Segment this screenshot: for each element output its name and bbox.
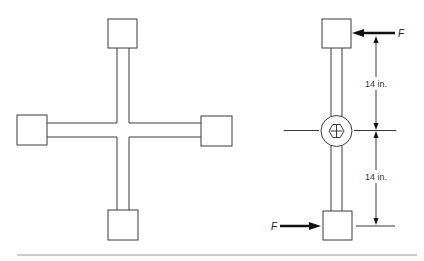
hub-nut-icon (321, 116, 352, 147)
wrench-diagram: 14 in. 14 in. F F (0, 0, 424, 261)
force-arrow-bottom: F (271, 221, 321, 232)
wrench-side-view-with-forces: 14 in. 14 in. F F (271, 19, 405, 240)
dimension-upper: 14 in. (365, 36, 387, 130)
force-top-label: F (398, 28, 405, 39)
dimension-lower: 14 in. (365, 131, 387, 225)
bottom-socket (108, 210, 138, 240)
bottom-socket-side (323, 211, 352, 240)
top-socket (108, 19, 137, 48)
force-bottom-label: F (271, 221, 278, 232)
left-socket (17, 115, 47, 145)
dimension-lower-label: 14 in. (365, 172, 387, 182)
dimension-upper-label: 14 in. (365, 79, 387, 89)
cross-wrench-plan-view (17, 19, 232, 240)
right-socket (201, 116, 232, 146)
top-socket-side (322, 19, 351, 48)
force-arrow-top: F (352, 28, 405, 39)
